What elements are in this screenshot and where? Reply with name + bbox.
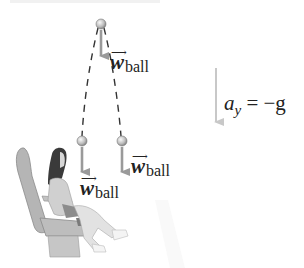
shoe-right	[112, 230, 128, 240]
seated-person-illustration	[16, 148, 128, 257]
chair-pedestal	[48, 236, 80, 257]
vector-symbol: ⟶w	[80, 178, 94, 199]
shoe-left	[92, 244, 106, 252]
vector-symbol: ⟶w	[110, 52, 124, 73]
vector-symbol: ⟶w	[131, 156, 145, 177]
ball-top	[96, 19, 106, 29]
weight-label-top: ⟶wball	[110, 52, 149, 73]
weight-label-right: ⟶wball	[131, 156, 170, 177]
ball-right	[117, 136, 127, 146]
acceleration-label: ay = −g	[224, 93, 286, 114]
weight-label-left: ⟶wball	[80, 178, 119, 199]
diagram-graphics	[0, 0, 304, 268]
vector-arrow-icon: ⟶	[111, 47, 127, 58]
vector-arrow-icon: ⟶	[81, 173, 97, 184]
faint-beam	[155, 200, 185, 268]
ball-left	[77, 136, 87, 146]
vector-arrow-icon: ⟶	[132, 151, 148, 162]
free-fall-diagram: ⟶wball ⟶wball ⟶wball ay = −g	[0, 0, 304, 268]
